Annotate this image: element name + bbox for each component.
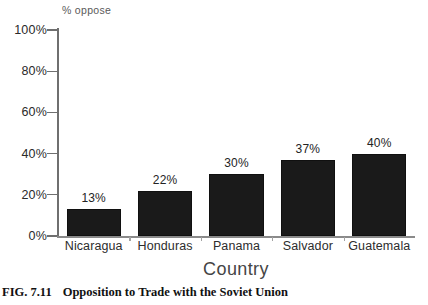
x-axis-category-label: Guatemala [344,239,415,253]
bar-series: 13%22%30%37%40% [58,30,415,236]
bar-slot: 40% [344,30,415,236]
y-axis-tick [47,153,57,154]
bar [138,191,192,236]
x-axis-title-wrap: Country [0,259,428,280]
y-axis-tick-label: 60% [1,105,47,119]
y-axis-title: % oppose [62,4,111,16]
x-axis-category-label: Salvador [272,239,343,253]
x-axis-tick [129,237,130,241]
bar-slot: 30% [201,30,272,236]
y-axis-tick [47,29,57,30]
bar-slot: 37% [272,30,343,236]
x-axis-category-label: Panama [201,239,272,253]
figure-container: % oppose 0%20%40%60%80%100% 13%22%30%37%… [0,0,428,305]
bar-value-label: 22% [129,173,200,187]
y-axis-tick [47,235,57,236]
bar [209,174,263,236]
y-axis-tick-label: 20% [1,188,47,202]
x-axis-category-label: Nicaragua [58,239,129,253]
figure-caption: FIG. 7.11Opposition to Trade with the So… [2,285,288,300]
x-axis-line [57,236,415,238]
y-axis-tick-label: 100% [1,23,47,37]
bar-slot: 13% [58,30,129,236]
y-axis-tick-label: 80% [1,64,47,78]
x-axis-tick [272,237,273,241]
bar-value-label: 37% [272,142,343,156]
y-axis-tick [47,71,57,72]
bar-value-label: 30% [201,156,272,170]
figure-caption-label: FIG. 7.11 [2,285,52,299]
bar-slot: 22% [129,30,200,236]
bar [352,154,406,236]
y-axis-tick-label: 0% [1,229,47,243]
bar [67,209,121,236]
x-axis-tick [344,237,345,241]
figure-caption-text: Opposition to Trade with the Soviet Unio… [63,285,288,299]
bar [281,160,335,236]
y-axis-tick [47,194,57,195]
y-axis-tick-label: 40% [1,147,47,161]
x-axis-title: Country [203,259,269,279]
y-axis-tick [47,112,57,113]
bar-value-label: 40% [344,136,415,150]
x-axis-tick [201,237,202,241]
bar-value-label: 13% [58,191,129,205]
x-axis-category-label: Honduras [129,239,200,253]
